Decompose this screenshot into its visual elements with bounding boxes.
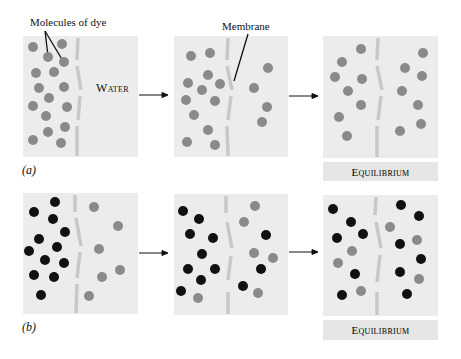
black-dye-molecule (416, 254, 426, 264)
molecules-of-dye-label: Molecules of dye (30, 16, 106, 28)
black-dye-molecule (183, 264, 193, 274)
gray-dye-molecule (60, 122, 70, 132)
black-dye-molecule (358, 229, 368, 239)
gray-dye-molecule (417, 71, 427, 81)
black-dye-molecule (210, 264, 220, 274)
gray-dye-molecule (416, 119, 426, 129)
gray-dye-molecule (249, 248, 259, 258)
gray-dye-molecule (189, 110, 199, 120)
black-dye-molecule (402, 289, 412, 299)
black-dye-molecule (350, 269, 360, 279)
gray-dye-molecule (203, 125, 213, 135)
black-dye-molecule (208, 233, 218, 243)
gray-dye-molecule (113, 221, 123, 231)
gray-dye-molecule (337, 57, 347, 67)
black-dye-molecule (52, 242, 62, 252)
gray-dye-molecule (249, 83, 259, 93)
gray-dye-molecule (181, 95, 191, 105)
black-dye-molecule (261, 230, 271, 240)
black-dye-molecule (328, 204, 338, 214)
gray-dye-molecule (395, 126, 405, 136)
gray-dye-molecule (197, 85, 207, 95)
black-dye-molecule (178, 206, 188, 216)
gray-dye-molecule (41, 111, 51, 121)
gray-dye-molecule (115, 265, 125, 275)
gray-dye-molecule (239, 217, 249, 227)
black-dye-molecule (332, 233, 342, 243)
gray-dye-molecule (385, 222, 395, 232)
black-dye-molecule (59, 258, 69, 268)
gray-dye-molecule (43, 127, 53, 137)
black-dye-molecule (50, 197, 60, 207)
black-dye-molecule (29, 207, 39, 217)
gray-dye-molecule (334, 112, 344, 122)
gray-dye-molecule (62, 102, 72, 112)
gray-dye-molecule (356, 286, 366, 296)
gray-dye-molecule (89, 202, 99, 212)
gray-dye-molecule (182, 137, 192, 147)
black-dye-molecule (396, 200, 406, 210)
part-a-label: (a) (22, 163, 36, 178)
gray-dye-molecule (203, 70, 213, 80)
gray-dye-molecule (210, 140, 220, 150)
gray-dye-molecule (49, 67, 59, 77)
black-dye-molecule (238, 281, 248, 291)
gray-dye-molecule (413, 100, 423, 110)
membrane-label: Membrane (222, 20, 270, 32)
gray-dye-molecule (56, 138, 66, 148)
black-dye-molecule (346, 217, 356, 227)
gray-dye-molecule (356, 44, 366, 54)
gray-dye-molecule (97, 272, 107, 282)
gray-dye-molecule (250, 201, 260, 211)
gray-dye-molecule (268, 253, 278, 263)
black-dye-molecule (40, 255, 50, 265)
gray-dye-molecule (253, 288, 263, 298)
gray-dye-molecule (257, 117, 267, 127)
gray-dye-molecule (333, 258, 343, 268)
black-dye-molecule (337, 290, 347, 300)
gray-dye-molecule (186, 51, 196, 61)
black-dye-molecule (176, 286, 186, 296)
black-dye-molecule (29, 270, 39, 280)
gray-dye-molecule (28, 101, 38, 111)
gray-dye-molecule (347, 246, 357, 256)
gray-dye-molecule (343, 86, 353, 96)
black-dye-molecule (414, 211, 424, 221)
gray-dye-molecule (330, 72, 340, 82)
gray-dye-molecule (412, 235, 422, 245)
gray-dye-molecule (43, 52, 53, 62)
gray-dye-molecule (28, 42, 38, 52)
diagram-lines (0, 0, 461, 359)
gray-dye-molecule (193, 293, 203, 303)
black-dye-molecule (49, 272, 59, 282)
gray-dye-molecule (28, 135, 38, 145)
gray-dye-molecule (59, 82, 69, 92)
black-dye-molecule (185, 229, 195, 239)
gray-dye-molecule (397, 86, 407, 96)
black-dye-molecule (196, 275, 206, 285)
gray-dye-molecule (210, 96, 220, 106)
water-label: Water (96, 81, 129, 96)
gray-dye-molecule (400, 63, 410, 73)
black-dye-molecule (60, 227, 70, 237)
part-b-label: (b) (22, 320, 36, 335)
gray-dye-molecule (31, 68, 41, 78)
gray-dye-molecule (84, 291, 94, 301)
black-dye-molecule (24, 246, 34, 256)
gray-dye-molecule (356, 100, 366, 110)
black-dye-molecule (48, 214, 58, 224)
black-dye-molecule (36, 290, 46, 300)
black-dye-molecule (256, 264, 266, 274)
gray-dye-molecule (59, 57, 69, 67)
black-dye-molecule (34, 234, 44, 244)
black-dye-molecule (395, 267, 405, 277)
gray-dye-molecule (357, 74, 367, 84)
gray-dye-molecule (44, 93, 54, 103)
gray-dye-molecule (205, 48, 215, 58)
gray-dye-molecule (215, 79, 225, 89)
gray-dye-molecule (263, 63, 273, 73)
black-dye-molecule (395, 239, 405, 249)
black-dye-molecule (197, 249, 207, 259)
gray-dye-molecule (262, 102, 272, 112)
gray-dye-molecule (418, 48, 428, 58)
